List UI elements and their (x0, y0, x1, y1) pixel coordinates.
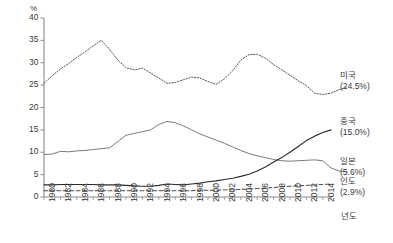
series-label-name: 인도 (340, 176, 356, 186)
x-axis-tick-label: 2012 (310, 183, 319, 202)
series-label-value: (15.0%) (340, 127, 370, 138)
series-label-name: 일본 (340, 156, 356, 166)
y-axis-tick-label: 40 (17, 13, 39, 22)
y-axis-tick-label: 20 (17, 103, 39, 112)
series-line-2 (44, 130, 331, 186)
x-axis-tick-label: 1994 (163, 183, 172, 202)
series-line-1 (44, 121, 347, 172)
series-label-미국: 미국(24.5%) (340, 70, 370, 91)
x-axis-tick-label: 1988 (114, 183, 123, 202)
series-line-0 (44, 40, 347, 94)
series-label-name: 미국 (340, 70, 356, 80)
y-axis-tick-label: 15 (17, 125, 39, 134)
x-axis-tick-label: 1992 (146, 183, 155, 202)
y-axis-tick-label: 0 (17, 192, 39, 201)
series-label-value: (2.9%) (340, 187, 365, 198)
x-axis-tick-label: 2002 (228, 183, 237, 202)
line-chart: % 0510152025303540 198019821984198619881… (0, 0, 393, 243)
x-axis-tick-label: 2004 (245, 183, 254, 202)
x-axis-tick-label: 1998 (196, 183, 205, 202)
y-axis-tick-label: 30 (17, 58, 39, 67)
x-axis-tick-label: 1980 (48, 183, 57, 202)
x-axis-tick-label: 1982 (64, 183, 73, 202)
x-axis-tick-label: 1986 (97, 183, 106, 202)
y-axis-tick-label: 5 (17, 170, 39, 179)
series-label-중국: 중국(15.0%) (340, 116, 370, 137)
x-axis-tick-label: 2008 (278, 183, 287, 202)
x-axis-tick-label: 2000 (212, 183, 221, 202)
series-label-인도: 인도(2.9%) (340, 176, 365, 197)
series-lines (44, 40, 347, 190)
x-axis-tick-label: 2014 (327, 183, 336, 202)
axis-lines (44, 18, 331, 197)
series-label-name: 중국 (340, 116, 356, 126)
x-axis-tick-label: 1984 (81, 183, 90, 202)
x-axis-tick-label: 2006 (261, 183, 270, 202)
x-axis-tick-label: 1990 (130, 183, 139, 202)
y-axis-tick-label: 35 (17, 35, 39, 44)
series-label-value: (24.5%) (340, 81, 370, 92)
x-axis-tick-label: 2010 (294, 183, 303, 202)
x-axis-tick-label: 1996 (179, 183, 188, 202)
y-axis-tick-label: 10 (17, 147, 39, 156)
plot-area (0, 0, 393, 243)
y-axis-tick-label: 25 (17, 80, 39, 89)
x-axis-title: 년도 (341, 209, 357, 221)
series-label-일본: 일본(5.6%) (340, 156, 365, 177)
